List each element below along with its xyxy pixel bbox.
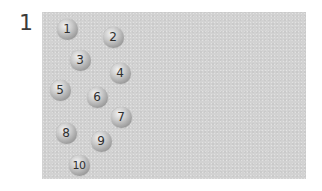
figure-number-label: 1 (19, 11, 33, 35)
ball-5: 5 (50, 80, 71, 101)
ball-4: 4 (110, 63, 131, 84)
textured-panel (42, 12, 306, 179)
ball-10: 10 (69, 155, 90, 176)
ball-3: 3 (70, 50, 91, 71)
ball-7: 7 (111, 107, 132, 128)
ball-2: 2 (103, 27, 124, 48)
ball-1: 1 (57, 19, 78, 40)
ball-6: 6 (87, 87, 108, 108)
ball-8: 8 (56, 123, 77, 144)
ball-9: 9 (91, 131, 112, 152)
